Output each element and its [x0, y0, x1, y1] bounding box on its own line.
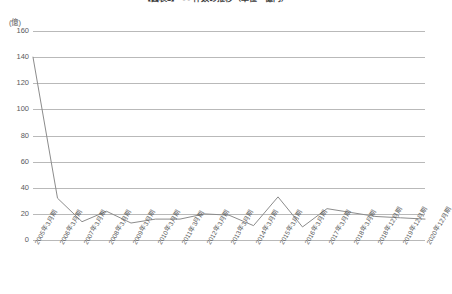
x-tick: 2007年3月期	[82, 240, 83, 294]
x-tick: 2012年3月期	[205, 240, 206, 294]
x-axis-labels: 2005年3月期2006年3月期2007年3月期2008年3月期2009年3月期…	[33, 240, 425, 294]
x-tick: 2020年12月期	[425, 240, 426, 294]
y-tick-label: 100	[3, 105, 29, 113]
x-tick: 2005年3月期	[33, 240, 34, 294]
series-line	[33, 31, 425, 240]
x-tick: 2019年12月期	[401, 240, 402, 294]
x-tick: 2015年3月期	[278, 240, 279, 294]
x-tick: 2009年3月期	[131, 240, 132, 294]
x-tick: 2014年3月期	[254, 240, 255, 294]
x-tick: 2018年12月期	[376, 240, 377, 294]
x-tick: 2017年3月期	[327, 240, 328, 294]
chart-title: 【図表1】 ○○ 件数の推移（単位・億円）	[0, 0, 432, 4]
y-tick-label: 80	[3, 132, 29, 140]
y-tick-label: 120	[3, 79, 29, 87]
y-tick-label: 40	[3, 184, 29, 192]
x-tick: 2010年3月期	[156, 240, 157, 294]
y-tick-label: 140	[3, 53, 29, 61]
x-tick: 2006年3月期	[58, 240, 59, 294]
y-tick-label: 60	[3, 158, 29, 166]
y-tick-label: 20	[3, 210, 29, 218]
y-tick-label: 160	[3, 27, 29, 35]
x-tick: 2013年3月期	[229, 240, 230, 294]
x-tick: 2011年3月期	[180, 240, 181, 294]
x-tick: 2008年3月期	[107, 240, 108, 294]
x-tick: 2016年3月期	[303, 240, 304, 294]
y-tick-label: 0	[3, 236, 29, 244]
x-tick: 2018年3月期	[352, 240, 353, 294]
y-axis-labels: 160140120100806040200	[0, 31, 29, 240]
x-tick-label: 2020年12月期	[425, 205, 452, 245]
